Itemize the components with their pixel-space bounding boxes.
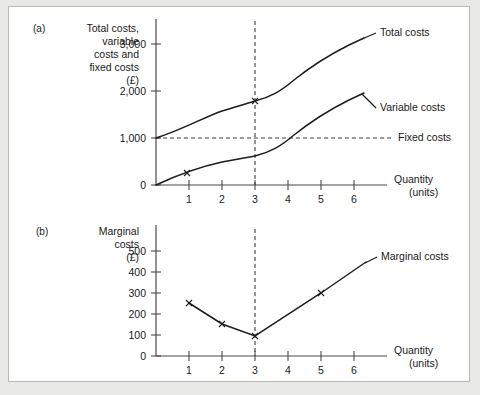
panel-b-y-label-0: 0 xyxy=(140,350,146,362)
panel-a-series-label-fixed-costs: Fixed costs xyxy=(398,131,451,143)
panel-b-y-label-100: 100 xyxy=(128,329,146,341)
panel-a: (a) Total costs, variable costs and fixe… xyxy=(33,19,451,205)
panel-a-y-label-3000: 3,000 xyxy=(120,38,146,50)
panel-b-x-label-1: 1 xyxy=(186,364,192,376)
panel-b-marginal-costs-leader xyxy=(365,257,377,263)
panel-a-total-costs-curve xyxy=(156,38,364,138)
panel-a-x-label-5: 5 xyxy=(318,193,324,205)
panel-b-series-label-marginal-costs: Marginal costs xyxy=(381,250,449,262)
panel-b-x-label-2: 2 xyxy=(219,364,225,376)
panel-a-x-label-1: 1 xyxy=(186,193,192,205)
panel-b-marker-q5 xyxy=(318,290,324,296)
panel-b-marker-q1 xyxy=(186,300,192,306)
panel-a-variable-costs-leader xyxy=(362,94,376,108)
panel-a-y-label-1000: 1,000 xyxy=(120,132,146,144)
panel-b-y-label-300: 300 xyxy=(128,287,146,299)
panel-b-y-label-400: 400 xyxy=(128,266,146,278)
panel-b-y-label-200: 200 xyxy=(128,308,146,320)
panel-a-caption-line-4: fixed costs xyxy=(89,61,139,73)
panel-b-x-label-3: 3 xyxy=(252,364,258,376)
panel-a-series-label-total-costs: Total costs xyxy=(380,26,430,38)
panel-a-x-axis-title-line-1: Quantity xyxy=(394,173,434,185)
panel-a-y-label-2000: 2,000 xyxy=(120,85,146,97)
panel-b: (b) Marginal costs (£) 0 100 200 300 400… xyxy=(36,225,449,376)
panel-a-y-label-0: 0 xyxy=(140,179,146,191)
panel-a-x-label-6: 6 xyxy=(351,193,357,205)
panel-a-x-label-4: 4 xyxy=(285,193,291,205)
panel-a-x-label-3: 3 xyxy=(252,193,258,205)
panel-a-series-label-variable-costs: Variable costs xyxy=(380,101,445,113)
panel-a-total-costs-leader xyxy=(362,33,376,39)
panel-b-caption-line-1: Marginal xyxy=(99,225,139,237)
panel-b-y-label-500: 500 xyxy=(128,245,146,257)
panel-a-variable-costs-curve xyxy=(156,93,364,185)
panel-b-x-label-4: 4 xyxy=(285,364,291,376)
panel-b-x-axis-title-line-1: Quantity xyxy=(394,344,434,356)
panel-a-letter: (a) xyxy=(33,23,45,34)
panel-b-letter: (b) xyxy=(36,226,48,237)
figure-frame: (a) Total costs, variable costs and fixe… xyxy=(8,6,470,382)
panel-b-marginal-costs-line xyxy=(189,262,366,336)
panel-b-x-axis-title-line-2: (units) xyxy=(409,357,438,369)
panel-b-x-label-6: 6 xyxy=(351,364,357,376)
panel-a-caption-line-1: Total costs, xyxy=(86,22,139,34)
figure-canvas: (a) Total costs, variable costs and fixe… xyxy=(9,7,469,381)
panel-a-x-label-2: 2 xyxy=(219,193,225,205)
panel-b-x-label-5: 5 xyxy=(318,364,324,376)
panel-a-x-axis-title-line-2: (units) xyxy=(409,186,438,198)
